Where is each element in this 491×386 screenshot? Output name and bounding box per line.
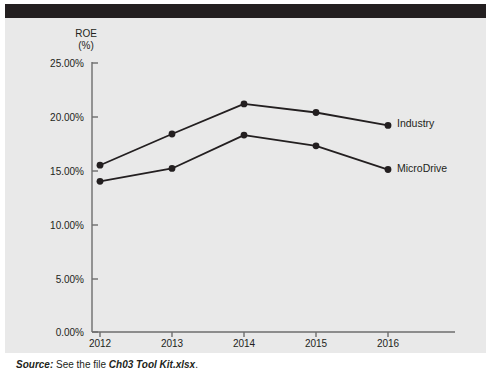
leader-line-industry [388, 124, 391, 125]
source-text-before: See the file [53, 359, 109, 370]
data-point-microdrive-2012 [97, 178, 104, 185]
source-label: Source: [16, 359, 53, 370]
source-note: Source: See the file Ch03 Tool Kit.xlsx. [16, 359, 198, 370]
data-point-industry-2016 [385, 122, 392, 129]
y-tick-marks [92, 63, 98, 332]
series-line-microdrive [100, 135, 388, 181]
data-point-industry-2015 [313, 109, 320, 116]
data-point-microdrive-2015 [313, 142, 320, 149]
data-point-industry-2014 [241, 100, 248, 107]
data-point-microdrive-2014 [241, 132, 248, 139]
x-tick-marks [100, 332, 388, 337]
source-text-after: . [195, 359, 198, 370]
data-point-industry-2013 [169, 131, 176, 138]
chart-svg [0, 0, 491, 386]
data-point-microdrive-2013 [169, 165, 176, 172]
data-series-group [97, 100, 392, 184]
figure-container: ROE (%) 25.00% 20.00% 15.00% 10.00% 5.00… [0, 0, 491, 386]
source-file-name: Ch03 Tool Kit.xlsx [109, 359, 195, 370]
data-point-industry-2012 [97, 162, 104, 169]
